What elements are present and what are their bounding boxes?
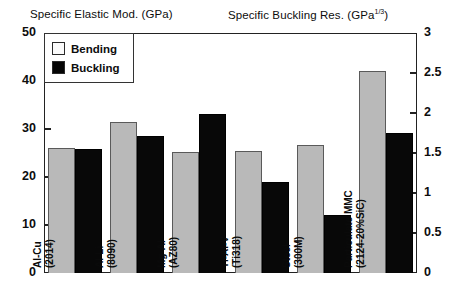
bar-bending [297,145,324,273]
bar-bending [48,148,75,273]
bar-bending [235,151,262,273]
legend-swatch-buckling-icon [52,61,65,74]
left-axis-tick-label: 10 [2,217,36,231]
right-axis-tick-label: 1.5 [424,145,441,159]
right-axis-title-exponent: 1/3 [375,8,385,15]
left-axis-tick-label: 30 [2,121,36,135]
right-axis-title: Specific Buckling Res. (GPa1/3) [228,8,388,21]
legend-item-buckling: Buckling [52,58,133,77]
left-axis-title-text: Specific Elastic Mod. (GPa) [30,8,173,20]
bar-buckling [75,149,102,273]
left-axis-tick-label: 20 [2,169,36,183]
category-label-line1: Al-Cu [32,241,43,268]
bar-bending [110,122,137,273]
legend-label-bending: Bending [71,43,117,55]
bar-buckling [262,182,289,273]
right-axis-tick-mark [410,112,417,114]
right-axis-tick-label: 3 [424,25,431,39]
left-axis-tick-mark [44,128,51,130]
right-axis-tick-mark [410,72,417,74]
legend-item-bending: Bending [52,39,133,58]
right-axis-tick-label: 1 [424,185,431,199]
right-axis-tick-label: 0.5 [424,225,441,239]
bar-bending [359,71,386,273]
bar-buckling [137,136,164,273]
left-axis-tick-label: 40 [2,73,36,87]
chart-legend: Bending Buckling [44,33,134,83]
right-axis-tick-label: 2 [424,105,431,119]
bar-buckling [324,215,351,273]
bar-bending [172,152,199,273]
bar-buckling [386,133,413,273]
right-axis-title-text: Specific Buckling Res. (GPa [228,9,375,21]
legend-label-buckling: Buckling [71,62,120,74]
left-axis-title: Specific Elastic Mod. (GPa) [30,8,173,20]
bar-buckling [199,114,226,273]
left-axis-tick-label: 0 [2,265,36,279]
legend-swatch-bending-icon [52,42,65,55]
left-axis-tick-label: 50 [2,25,36,39]
right-axis-tick-label: 0 [424,265,431,279]
right-axis-tick-label: 2.5 [424,65,441,79]
chart-container: Specific Elastic Mod. (GPa) Specific Buc… [0,0,452,299]
right-axis-title-tail: ) [384,9,388,21]
